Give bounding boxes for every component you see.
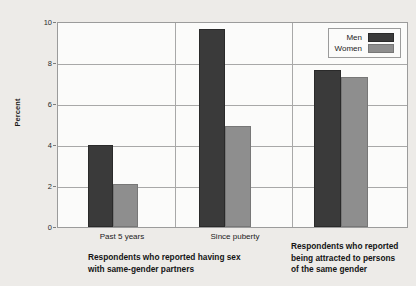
caption-left-line1: Respondents who reported having sex (88, 252, 241, 264)
bar-women-puberty (225, 126, 251, 227)
y-tick-label-6: 6 (30, 100, 52, 109)
y-tick-mark-2 (53, 186, 56, 187)
legend: Men Women (328, 28, 401, 58)
legend-swatch-women-icon (368, 44, 394, 53)
group-divider-1 (175, 23, 176, 227)
caption-left-line2: with same-gender partners (88, 264, 241, 276)
caption-right-line1: Respondents who reported (291, 241, 398, 253)
caption-right-line3: of the same gender (291, 264, 398, 276)
legend-row-women: Women (335, 43, 394, 54)
category-label-past5: Past 5 years (72, 232, 172, 241)
y-tick-label-8: 8 (30, 59, 52, 68)
y-tick-mark-8 (53, 63, 56, 64)
bar-men-past5 (88, 145, 113, 227)
y-tick-label-4: 4 (30, 141, 52, 150)
legend-label-women: Women (335, 44, 362, 53)
legend-row-men: Men (335, 32, 394, 43)
chart-figure: Percent 10 8 6 4 2 0 Men (0, 0, 416, 286)
y-tick-label-10: 10 (30, 18, 52, 27)
y-axis-title: Percent (13, 78, 22, 148)
group-divider-2 (292, 23, 293, 227)
bar-women-attracted (341, 77, 368, 227)
plot-area: Men Women (57, 22, 408, 228)
caption-right: Respondents who reported being attracted… (291, 241, 398, 276)
y-tick-mark-10 (53, 22, 56, 23)
legend-label-men: Men (346, 33, 362, 42)
caption-right-line2: being attracted to persons (291, 253, 398, 265)
legend-swatch-men-icon (368, 33, 394, 42)
caption-left: Respondents who reported having sex with… (88, 252, 241, 275)
y-tick-label-2: 2 (30, 182, 52, 191)
bar-men-attracted (314, 70, 341, 227)
y-tick-mark-4 (53, 145, 56, 146)
category-label-puberty: Since puberty (185, 232, 285, 241)
bar-women-past5 (113, 184, 138, 227)
gridline-8 (58, 64, 407, 65)
y-tick-label-0: 0 (30, 223, 52, 232)
bar-men-puberty (199, 29, 225, 227)
y-tick-mark-0 (53, 227, 56, 228)
y-tick-mark-6 (53, 104, 56, 105)
